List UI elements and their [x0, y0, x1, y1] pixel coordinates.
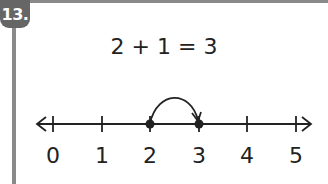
jump-arc — [150, 98, 198, 123]
tick-label-0: 0 — [46, 143, 60, 168]
point-3 — [195, 120, 204, 129]
tick-label-3: 3 — [192, 143, 206, 168]
tick-label-4: 4 — [240, 143, 254, 168]
point-2 — [146, 120, 155, 129]
tick-label-2: 2 — [143, 143, 157, 168]
tick-label-1: 1 — [95, 143, 109, 168]
tick-label-5: 5 — [289, 143, 303, 168]
